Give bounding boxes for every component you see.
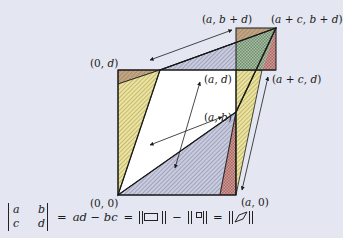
determinant-formula: a b c d = ad − bc = − = — [8, 202, 256, 232]
norm-parallelogram — [228, 211, 254, 224]
equals-sign: = — [57, 210, 67, 224]
label-a-plus-c-d: (a + c, d) — [272, 74, 321, 85]
label-a-plus-c-b-plus-d: (a + c, b + d) — [271, 14, 343, 25]
small-rectangle-icon — [196, 212, 202, 222]
norm-large-rectangle — [138, 211, 167, 224]
parallelogram-icon — [234, 211, 248, 223]
label-a-b-plus-d: (a, b + d) — [202, 14, 252, 25]
equals-sign: = — [213, 210, 223, 224]
label-0-d: (0, d) — [90, 58, 118, 69]
equals-sign: = — [124, 210, 134, 224]
rectangle-icon — [144, 212, 158, 222]
ad-minus-bc: ad − bc — [73, 210, 118, 224]
determinant-matrix: a b c d — [8, 203, 48, 231]
minus-sign: − — [172, 210, 182, 224]
label-a-b: (a, b) — [204, 112, 232, 123]
norm-small-rectangle — [187, 211, 208, 224]
yellow-triangle-right — [236, 70, 262, 195]
label-a-d: (a, d) — [204, 74, 232, 85]
